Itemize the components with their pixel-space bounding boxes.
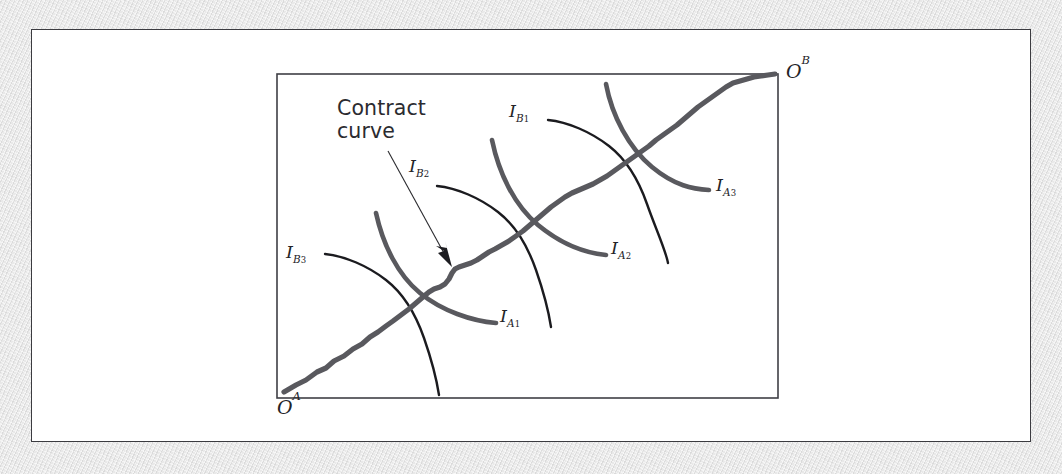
curve-label-b3-symbol: I (286, 242, 293, 262)
origin-label-b: OB (786, 60, 810, 82)
curve-label-b1-sub-letter: B (516, 112, 524, 124)
curve-label-a1-sub-digit: 1 (515, 319, 521, 329)
curve-label-a2: IA2 (611, 238, 631, 261)
contract-curve-leader-arrowhead (436, 241, 452, 267)
curve-label-b2-sub-digit: 2 (424, 169, 430, 179)
curve-label-b3-sub-letter: B (293, 253, 301, 265)
origin-a-symbol: O (277, 396, 293, 418)
indifference-curve-b2 (437, 186, 551, 327)
origin-a-superscript: A (293, 389, 301, 403)
edgeworth-box-diagram (0, 0, 1062, 474)
curve-label-b1: IB1 (509, 101, 529, 124)
curve-label-b1-symbol: I (509, 101, 516, 121)
curve-label-a3-symbol: I (716, 175, 723, 195)
curve-label-b3-sub-digit: 3 (301, 255, 307, 265)
curve-label-b2: IB2 (409, 156, 429, 179)
contract-curve-caption-line1: Contract (337, 97, 426, 120)
curve-label-a1-symbol: I (500, 306, 507, 326)
curve-label-b2-symbol: I (409, 156, 416, 176)
contract-curve-caption: Contract curve (337, 97, 426, 144)
curve-label-a3: IA3 (716, 175, 736, 198)
indifference-curve-b3 (325, 254, 439, 395)
curve-label-a2-symbol: I (611, 238, 618, 258)
origin-label-a: OA (277, 396, 301, 418)
curve-label-b1-sub-digit: 1 (524, 114, 530, 124)
contract-curve-caption-line2: curve (337, 120, 426, 143)
figure-page: Contract curve OA OB IA1 IA2 IA3 IB1 IB2… (0, 0, 1062, 474)
curve-label-a2-sub-letter: A (618, 249, 626, 261)
curve-label-a3-sub-digit: 3 (731, 188, 737, 198)
curve-label-a3-sub-letter: A (723, 186, 731, 198)
indifference-curve-a1 (376, 213, 496, 323)
curve-label-b2-sub-letter: B (416, 167, 424, 179)
curve-label-a2-sub-digit: 2 (626, 251, 632, 261)
curve-label-b3: IB3 (286, 242, 306, 265)
curve-label-a1-sub-letter: A (507, 317, 515, 329)
origin-b-superscript: B (802, 53, 810, 67)
curve-label-a1: IA1 (500, 306, 520, 329)
origin-b-symbol: O (786, 60, 802, 82)
